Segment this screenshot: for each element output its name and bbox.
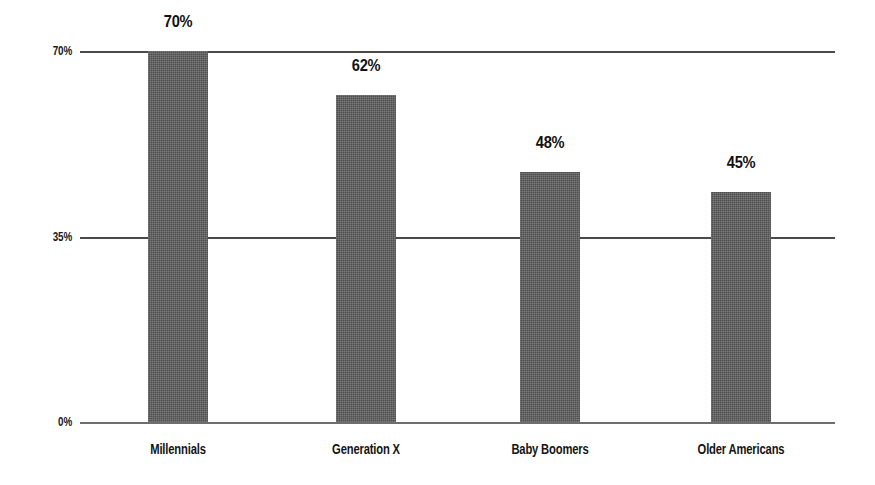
bar-value-label-older-americans: 45%	[689, 153, 792, 173]
category-label-baby-boomers: Baby Boomers	[502, 441, 598, 457]
bar-value-label-generation-x: 62%	[314, 56, 417, 76]
y-tick-70: 70%	[0, 44, 72, 58]
category-label-millennials: Millennials	[130, 441, 226, 457]
bar-chart: 70% 35% 0% 70% Millennials 62% Generatio…	[0, 0, 875, 485]
category-label-generation-x: Generation X	[318, 441, 414, 457]
bar-value-label-baby-boomers: 48%	[498, 133, 601, 153]
y-tick-35: 35%	[0, 230, 72, 244]
plot-area: 70% 35% 0% 70% Millennials 62% Generatio…	[0, 0, 875, 485]
y-tick-0: 0%	[0, 415, 72, 429]
bar-older-americans[interactable]	[711, 192, 771, 422]
y-tick-label-70: 70%	[21, 44, 72, 58]
y-tick-label-0: 0%	[21, 415, 72, 429]
bar-baby-boomers[interactable]	[520, 172, 580, 422]
bar-millennials[interactable]	[148, 51, 208, 422]
axis-baseline-0	[80, 422, 835, 424]
bar-value-label-millennials: 70%	[126, 12, 229, 32]
bar-generation-x[interactable]	[336, 95, 396, 422]
y-tick-label-35: 35%	[21, 230, 72, 244]
category-label-older-americans: Older Americans	[693, 441, 789, 457]
